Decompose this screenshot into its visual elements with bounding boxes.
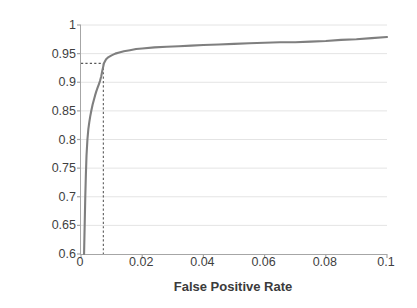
y-axis-tick-label: 0.6 <box>30 248 76 261</box>
gridlines <box>81 25 387 225</box>
y-axis-ticks <box>77 25 81 254</box>
x-axis-title: False Positive Rate <box>80 279 386 294</box>
y-axis-tick-label: 0.95 <box>30 47 76 60</box>
y-axis-tick-label: 1 <box>30 19 76 32</box>
roc-curve-line <box>84 37 387 254</box>
plot-area <box>80 25 387 255</box>
x-axis-tick-label: 0.1 <box>377 256 394 269</box>
y-axis-tick-label: 0.75 <box>30 162 76 175</box>
plot-canvas <box>81 25 387 254</box>
y-axis-tick-label: 0.85 <box>30 105 76 118</box>
x-axis-tick-label: 0 <box>77 256 84 269</box>
roc-chart: True Positive Rate 0.60.650.70.750.80.85… <box>0 0 417 308</box>
x-axis-ticks <box>81 254 387 258</box>
x-axis-tick-label: 0.08 <box>313 256 337 269</box>
y-axis-title: True Positive Rate <box>0 0 26 308</box>
y-axis-tick-label: 0.9 <box>30 76 76 89</box>
y-axis-tick-labels: 0.60.650.70.750.80.850.90.951 <box>28 0 76 308</box>
x-axis-tick-label: 0.06 <box>251 256 275 269</box>
y-axis-tick-label: 0.8 <box>30 133 76 146</box>
y-axis-tick-label: 0.7 <box>30 191 76 204</box>
x-axis-title-text: False Positive Rate <box>174 279 293 294</box>
x-axis-tick-label: 0.04 <box>190 256 214 269</box>
x-axis-tick-label: 0.02 <box>129 256 153 269</box>
y-axis-tick-label: 0.65 <box>30 219 76 232</box>
